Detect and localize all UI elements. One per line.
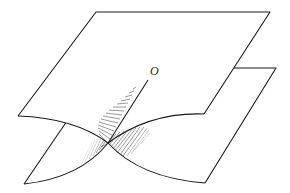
origin-label: O	[150, 64, 159, 78]
surface-figure: O	[0, 0, 290, 193]
diagram: O	[0, 0, 290, 193]
